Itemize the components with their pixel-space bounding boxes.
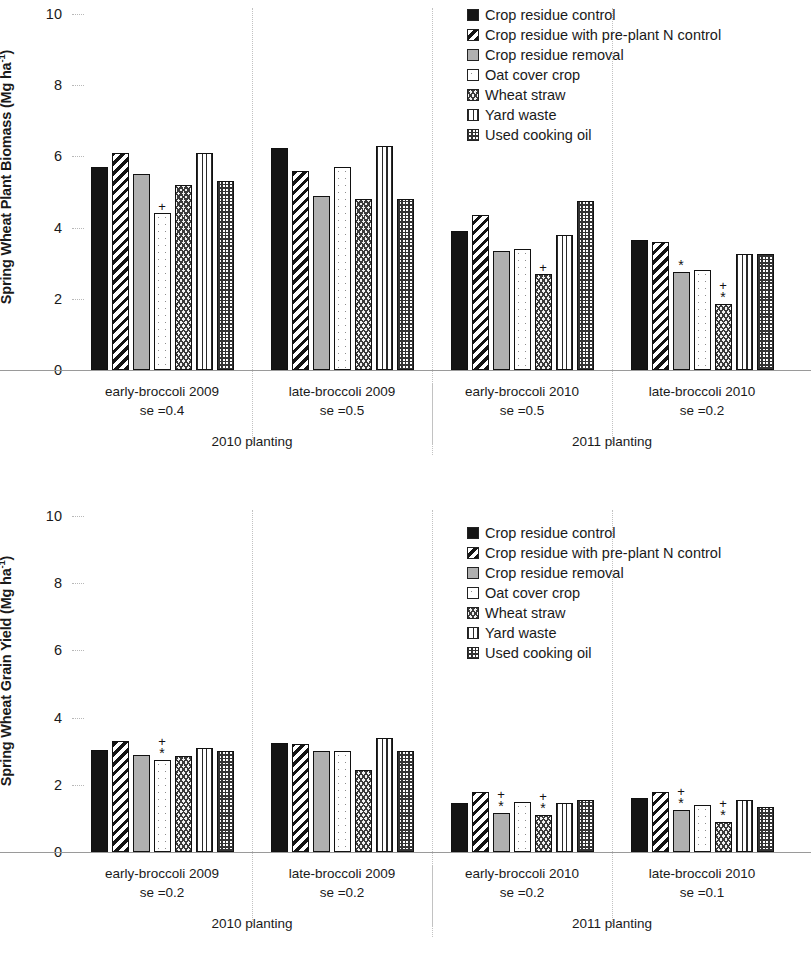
- legend-item[interactable]: Crop residue control: [467, 523, 721, 543]
- bar[interactable]: *: [673, 272, 690, 370]
- bar[interactable]: [652, 792, 669, 852]
- bar[interactable]: [556, 235, 573, 370]
- bar[interactable]: [292, 744, 309, 852]
- legend-item-label: Crop residue removal: [485, 47, 624, 63]
- legend-item[interactable]: Oat cover crop: [467, 65, 721, 85]
- legend-item[interactable]: Yard waste: [467, 105, 721, 125]
- bar[interactable]: [355, 770, 372, 852]
- bar[interactable]: [91, 167, 108, 370]
- bar-slot: [334, 516, 351, 852]
- bar[interactable]: [196, 748, 213, 852]
- bar[interactable]: [577, 800, 594, 852]
- legend-item-label: Crop residue with pre-plant N control: [485, 545, 721, 561]
- legend-item[interactable]: Wheat straw: [467, 603, 721, 623]
- bar[interactable]: [91, 750, 108, 852]
- bar[interactable]: [112, 153, 129, 370]
- legend-item[interactable]: Used cooking oil: [467, 643, 721, 663]
- bar-slot: [112, 14, 129, 370]
- bar[interactable]: [631, 798, 648, 852]
- legend-swatch-solid-gray: [467, 49, 479, 61]
- standard-error-label: se =0.1: [614, 883, 790, 902]
- bar[interactable]: [694, 270, 711, 370]
- bar[interactable]: [271, 743, 288, 852]
- planting-season-label: 2010 planting: [72, 916, 432, 931]
- bar[interactable]: [196, 153, 213, 370]
- bar-slot: [91, 516, 108, 852]
- legend-item[interactable]: Crop residue removal: [467, 563, 721, 583]
- standard-error-label: se =0.2: [254, 883, 430, 902]
- bar[interactable]: [217, 751, 234, 852]
- legend-item[interactable]: Used cooking oil: [467, 125, 721, 145]
- bar[interactable]: [355, 199, 372, 370]
- bar[interactable]: +*: [493, 813, 510, 852]
- bar[interactable]: [451, 231, 468, 370]
- bar[interactable]: [313, 196, 330, 370]
- legend-item-label: Used cooking oil: [485, 127, 591, 143]
- bar[interactable]: +*: [715, 304, 732, 370]
- bar-slot: [736, 14, 753, 370]
- legend-item[interactable]: Crop residue with pre-plant N control: [467, 25, 721, 45]
- legend-swatch-solid-black: [467, 527, 479, 539]
- y-axis-tick-label: 2: [30, 291, 62, 307]
- bar[interactable]: [694, 805, 711, 852]
- bar[interactable]: [217, 181, 234, 370]
- bar[interactable]: +*: [673, 810, 690, 852]
- x-axis-group-name: early-broccoli 2010: [465, 384, 579, 399]
- bar[interactable]: [556, 803, 573, 852]
- bar[interactable]: [376, 738, 393, 852]
- bar[interactable]: [175, 185, 192, 370]
- bar[interactable]: [652, 242, 669, 370]
- bar[interactable]: [112, 741, 129, 852]
- x-axis-group-label: late-broccoli 2009se =0.2: [252, 860, 432, 902]
- bar[interactable]: [736, 254, 753, 370]
- bar[interactable]: [736, 800, 753, 852]
- bar-slot: [175, 14, 192, 370]
- x-axis-line: [0, 370, 811, 371]
- legend-item-label: Crop residue removal: [485, 565, 624, 581]
- bar[interactable]: [472, 215, 489, 370]
- chart-legend: Crop residue controlCrop residue with pr…: [467, 5, 721, 145]
- bar[interactable]: [472, 792, 489, 852]
- bar-slot: [313, 14, 330, 370]
- bar[interactable]: +*: [535, 815, 552, 852]
- bar-slot: [334, 14, 351, 370]
- legend-item[interactable]: Oat cover crop: [467, 583, 721, 603]
- legend-item[interactable]: Wheat straw: [467, 85, 721, 105]
- legend-swatch-open: [467, 69, 479, 81]
- bar[interactable]: [313, 751, 330, 852]
- bar[interactable]: +: [154, 213, 171, 370]
- legend-item[interactable]: Crop residue with pre-plant N control: [467, 543, 721, 563]
- bar[interactable]: [376, 146, 393, 370]
- bar[interactable]: [397, 751, 414, 852]
- legend-item[interactable]: Crop residue control: [467, 5, 721, 25]
- bar[interactable]: [514, 249, 531, 370]
- legend-swatch-open: [467, 587, 479, 599]
- bar[interactable]: [493, 251, 510, 370]
- bar[interactable]: [397, 199, 414, 370]
- bar[interactable]: [757, 807, 774, 852]
- bar[interactable]: [292, 171, 309, 370]
- legend-item-label: Oat cover crop: [485, 585, 580, 601]
- bar[interactable]: [271, 148, 288, 371]
- x-axis-group-label: late-broccoli 2009se =0.5: [252, 378, 432, 420]
- bar[interactable]: +: [535, 274, 552, 370]
- bar[interactable]: [175, 756, 192, 852]
- bar[interactable]: [334, 167, 351, 370]
- bar-slot: [271, 14, 288, 370]
- legend-item[interactable]: Crop residue removal: [467, 45, 721, 65]
- legend-swatch-checkerboard: [467, 129, 479, 141]
- x-axis-group-name: late-broccoli 2010: [649, 384, 756, 399]
- bar-slot: [376, 14, 393, 370]
- bar[interactable]: [334, 751, 351, 852]
- bar[interactable]: [514, 802, 531, 852]
- bar[interactable]: +*: [715, 822, 732, 852]
- bar[interactable]: [451, 803, 468, 852]
- x-axis-group-name: early-broccoli 2009: [105, 866, 219, 881]
- bar[interactable]: [631, 240, 648, 370]
- bar[interactable]: +*: [154, 760, 171, 852]
- bar[interactable]: [577, 201, 594, 370]
- bar[interactable]: [757, 254, 774, 370]
- bar[interactable]: [133, 174, 150, 370]
- bar[interactable]: [133, 755, 150, 852]
- legend-item[interactable]: Yard waste: [467, 623, 721, 643]
